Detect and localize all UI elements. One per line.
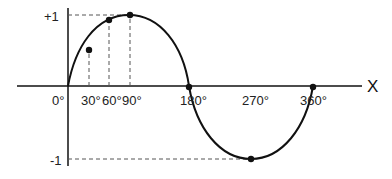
- sine-diagram: +1 -1 0° 30° 60° 90° 180° 270° 360° X: [0, 0, 392, 179]
- x-tick-60: 60°: [102, 93, 122, 108]
- point-60: [106, 17, 112, 23]
- x-tick-270: 270°: [242, 93, 269, 108]
- point-90: [127, 12, 133, 18]
- x-tick-90: 90°: [122, 93, 142, 108]
- point-270: [248, 156, 254, 162]
- x-tick-180: 180°: [180, 93, 207, 108]
- data-points: [86, 12, 316, 162]
- x-tick-30: 30°: [81, 93, 101, 108]
- point-360: [310, 84, 316, 90]
- x-axis-label: X: [367, 77, 378, 96]
- dashed-guides: [68, 15, 251, 159]
- x-tick-360: 360°: [300, 93, 327, 108]
- y-label-bottom: -1: [50, 153, 62, 168]
- point-180: [186, 84, 192, 90]
- x-tick-0: 0°: [52, 93, 64, 108]
- point-30: [86, 47, 92, 53]
- y-label-top: +1: [44, 9, 59, 24]
